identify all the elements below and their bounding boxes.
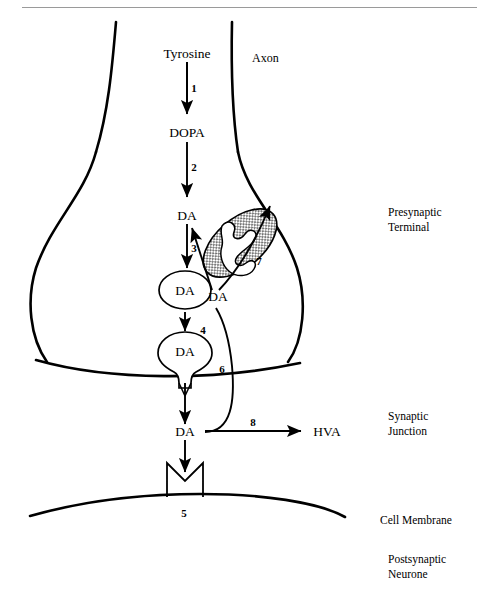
- step-number-8: 8: [250, 416, 256, 428]
- label-axon: Axon: [252, 51, 279, 65]
- vesicle-lower-fused-body: [158, 332, 212, 388]
- label-synaptic-junction-line2: Junction: [388, 425, 427, 437]
- molecule-tyrosine: Tyrosine: [163, 46, 210, 61]
- axon: [96, 22, 238, 152]
- molecule-dopa: DOPA: [169, 125, 205, 140]
- label-presynaptic-terminal-line2: Terminal: [388, 221, 429, 233]
- dopamine-synapse-diagram: Tyrosine DOPA DA DA DA DA DA HVA 1 2 3 4…: [0, 0, 479, 591]
- diagram-canvas: Tyrosine DOPA DA DA DA DA DA HVA 1 2 3 4…: [0, 0, 479, 591]
- molecule-da-synaptic: DA: [175, 424, 195, 439]
- terminal-wall-left: [31, 152, 96, 362]
- step-number-1: 1: [191, 82, 197, 94]
- step-number-7: 7: [256, 255, 262, 267]
- label-synaptic-junction-line1: Synaptic: [388, 410, 428, 423]
- step-number-3: 3: [191, 242, 197, 254]
- molecule-da-vesicle-upper: DA: [175, 283, 195, 298]
- step-number-5: 5: [181, 507, 187, 519]
- molecule-hva: HVA: [313, 424, 341, 439]
- step-number-6: 6: [219, 363, 225, 375]
- molecule-da-reuptake: DA: [208, 289, 228, 304]
- label-presynaptic-terminal-line1: Presynaptic: [388, 206, 442, 219]
- region-labels: Axon Presynaptic Terminal Synaptic Junct…: [252, 51, 452, 580]
- axon-wall-right: [232, 22, 238, 152]
- step-number-2: 2: [191, 161, 197, 173]
- axon-wall-left: [96, 22, 116, 152]
- molecule-da-cytosol: DA: [177, 208, 197, 223]
- label-cell-membrane: Cell Membrane: [380, 514, 452, 526]
- label-postsynaptic-neurone-line1: Postsynaptic: [388, 553, 446, 566]
- step-number-4: 4: [200, 324, 206, 336]
- mitochondrion: [191, 196, 289, 290]
- postsynaptic-cell-membrane: [30, 494, 345, 517]
- label-postsynaptic-neurone-line2: Neurone: [388, 568, 428, 580]
- postsynaptic-neurone: [30, 440, 345, 517]
- molecule-da-vesicle-lower: DA: [175, 344, 195, 359]
